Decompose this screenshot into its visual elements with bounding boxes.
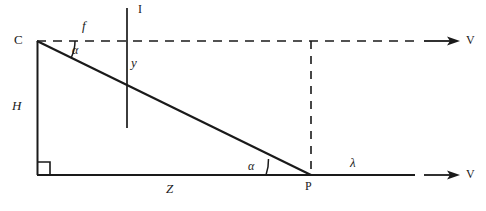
right-angle-marker: [37, 162, 50, 175]
angle-label-alpha-top: α: [72, 44, 78, 56]
vertex-label-c: C: [14, 33, 23, 46]
velocity-arrow-top: [424, 37, 460, 46]
height-label-h: H: [12, 99, 21, 112]
wavelength-label-lambda: λ: [350, 156, 356, 169]
image-plane-label-i: I: [138, 3, 142, 15]
distance-label-z: Z: [166, 182, 173, 195]
vertex-label-p: P: [305, 180, 312, 192]
image-height-label-y: y: [131, 56, 137, 69]
velocity-label-top: V: [466, 34, 475, 46]
velocity-arrow-bottom: [424, 171, 460, 180]
angle-label-alpha-bottom: α: [248, 160, 254, 172]
angle-alpha-at-p-arc: [266, 159, 269, 175]
line-of-sight: [37, 41, 311, 175]
velocity-label-bottom: V: [466, 168, 475, 180]
geometry-figure: C f I y α H Z α P λ V V: [0, 0, 486, 211]
focal-length-label-f: f: [82, 19, 86, 32]
diagram-canvas: [0, 0, 486, 211]
